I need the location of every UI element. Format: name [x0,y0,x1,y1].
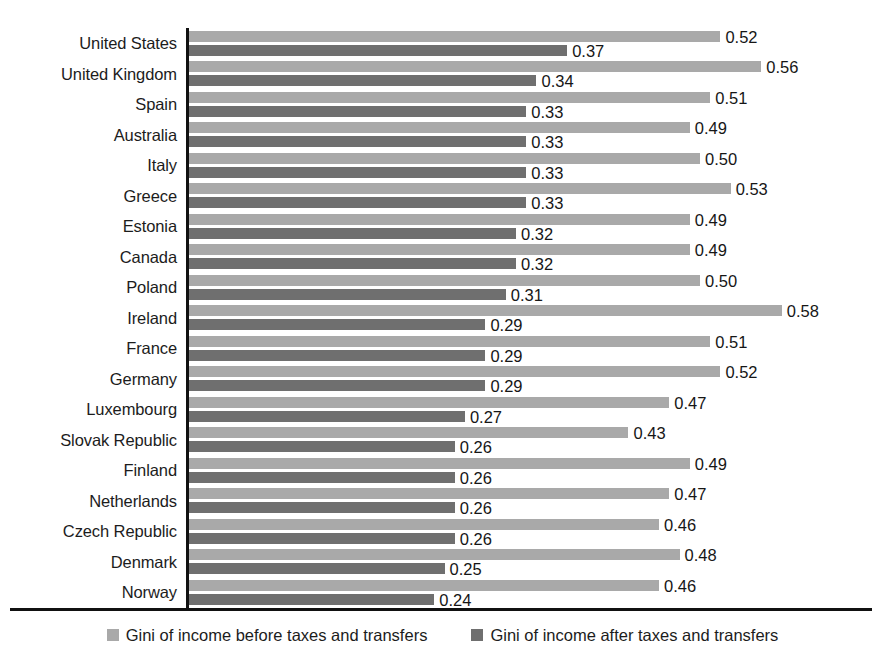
bar-value-label: 0.25 [450,561,482,578]
gini-grouped-bar-chart: United States0.520.37United Kingdom0.560… [0,0,885,658]
bar-after [189,319,485,330]
bar-row: Poland0.500.31 [0,272,885,303]
bar-value-label: 0.50 [705,151,737,168]
bar-row: Estonia0.490.32 [0,211,885,242]
bar-row: Canada0.490.32 [0,242,885,273]
bar-row: Ireland0.580.29 [0,303,885,334]
bar-row: Denmark0.480.25 [0,547,885,578]
bar-value-label: 0.26 [460,500,492,517]
bar-row: Spain0.510.33 [0,89,885,120]
bar-group: 0.580.29 [189,303,885,334]
bar-value-label: 0.49 [695,456,727,473]
bar-value-label: 0.33 [531,104,563,121]
category-label: Denmark [111,547,177,578]
bar-after [189,563,445,574]
category-label: Norway [122,577,177,608]
category-label: Canada [120,242,177,273]
bar-value-label: 0.33 [531,195,563,212]
bar-group: 0.510.29 [189,333,885,364]
bar-before [189,549,680,560]
bar-value-label: 0.49 [695,212,727,229]
bar-after [189,350,485,361]
bar-before [189,397,669,408]
bar-group: 0.510.33 [189,89,885,120]
bar-group: 0.490.33 [189,120,885,151]
category-label: Italy [147,150,177,181]
bar-value-label: 0.47 [674,486,706,503]
bar-before [189,183,731,194]
category-label: Australia [114,120,177,151]
bar-value-label: 0.52 [725,364,757,381]
bar-after [189,136,526,147]
bar-group: 0.500.31 [189,272,885,303]
bar-row: Finland0.490.26 [0,455,885,486]
bar-group: 0.520.29 [189,364,885,395]
category-label: France [126,333,177,364]
bar-row: Italy0.500.33 [0,150,885,181]
bar-value-label: 0.34 [541,73,573,90]
bar-after [189,167,526,178]
category-label: United States [79,28,177,59]
bar-before [189,519,659,530]
category-label: Czech Republic [63,516,177,547]
bar-value-label: 0.52 [725,29,757,46]
bar-after [189,533,455,544]
bar-value-label: 0.33 [531,165,563,182]
bar-value-label: 0.24 [439,592,471,609]
legend-item[interactable]: Gini of income before taxes and transfer… [107,626,428,645]
bar-before [189,31,720,42]
bar-value-label: 0.26 [460,470,492,487]
bar-value-label: 0.56 [766,59,798,76]
bar-value-label: 0.32 [521,226,553,243]
bar-before [189,580,659,591]
bar-rows: United States0.520.37United Kingdom0.560… [0,28,885,608]
bar-before [189,92,710,103]
bar-value-label: 0.26 [460,439,492,456]
bar-group: 0.520.37 [189,28,885,59]
bar-value-label: 0.33 [531,134,563,151]
bar-value-label: 0.49 [695,120,727,137]
bar-group: 0.500.33 [189,150,885,181]
bar-row: France0.510.29 [0,333,885,364]
bar-after [189,411,465,422]
bar-after [189,380,485,391]
bar-after [189,228,516,239]
category-label: Poland [126,272,177,303]
category-label: Estonia [123,211,177,242]
bar-row: Slovak Republic0.430.26 [0,425,885,456]
bar-group: 0.490.32 [189,242,885,273]
bar-group: 0.460.24 [189,577,885,608]
plot-area: United States0.520.37United Kingdom0.560… [0,22,885,610]
bar-before [189,61,761,72]
bar-before [189,366,720,377]
bar-value-label: 0.32 [521,256,553,273]
bar-after [189,106,526,117]
legend-label: Gini of income after taxes and transfers [490,626,778,645]
bar-after [189,472,455,483]
bar-value-label: 0.51 [715,334,747,351]
bar-value-label: 0.27 [470,409,502,426]
bar-row: United States0.520.37 [0,28,885,59]
legend-swatch-icon [107,629,119,641]
bar-value-label: 0.49 [695,242,727,259]
bar-before [189,214,690,225]
category-label: Ireland [127,303,177,334]
bar-before [189,458,690,469]
bar-value-label: 0.29 [490,317,522,334]
category-label: Finland [124,455,177,486]
bar-value-label: 0.48 [685,547,717,564]
bar-value-label: 0.29 [490,348,522,365]
bar-before [189,153,700,164]
bar-value-label: 0.47 [674,395,706,412]
bar-value-label: 0.50 [705,273,737,290]
legend-item[interactable]: Gini of income after taxes and transfers [471,626,778,645]
bar-group: 0.560.34 [189,59,885,90]
bar-before [189,488,669,499]
bar-group: 0.490.26 [189,455,885,486]
bar-after [189,594,434,605]
bar-value-label: 0.31 [511,287,543,304]
bar-group: 0.530.33 [189,181,885,212]
bar-group: 0.480.25 [189,547,885,578]
bar-row: Netherlands0.470.26 [0,486,885,517]
bar-row: Norway0.460.24 [0,577,885,608]
